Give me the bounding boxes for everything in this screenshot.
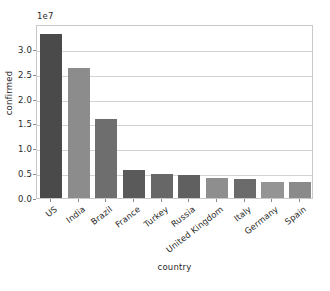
bar <box>289 182 311 198</box>
bar <box>206 178 228 198</box>
y-axis-tick-label: 3.0 <box>2 45 32 55</box>
y-axis-tick-label: 2.5 <box>2 70 32 80</box>
bar <box>261 182 283 198</box>
y-axis-tick-label: 1.5 <box>2 119 32 129</box>
x-axis-tick-label: Brazil <box>89 204 114 227</box>
plot-area <box>36 25 313 199</box>
x-axis-tick-mark <box>161 199 162 202</box>
x-axis-tick-label: US <box>44 204 59 219</box>
bar <box>68 68 90 198</box>
x-axis-tick-mark <box>133 199 134 202</box>
x-axis-title: country <box>36 262 313 272</box>
bar <box>151 174 173 198</box>
x-axis-tick-labels: USIndiaBrazilFranceTurkeyRussiaUnited Ki… <box>36 199 313 259</box>
x-axis-tick-mark <box>50 199 51 202</box>
y-axis-offset-text: 1e7 <box>37 11 54 21</box>
x-axis-tick-label: France <box>113 204 142 230</box>
x-axis-tick-mark <box>299 199 300 202</box>
y-axis-tick-labels: 0.00.51.01.52.02.53.0 <box>0 25 32 199</box>
y-axis-tick-label: 1.0 <box>2 144 32 154</box>
bar-chart-figure: 1e7 confirmed 0.00.51.01.52.02.53.0 USIn… <box>0 0 330 291</box>
bar <box>40 34 62 198</box>
x-axis-tick-label: Italy <box>232 204 253 224</box>
y-axis-tick-label: 2.0 <box>2 95 32 105</box>
x-axis-tick-label: Spain <box>283 204 308 227</box>
bar <box>95 119 117 198</box>
x-axis-tick-label: Turkey <box>141 204 169 229</box>
bar <box>123 170 145 198</box>
x-axis-tick-mark <box>188 199 189 202</box>
x-axis-tick-mark <box>244 199 245 202</box>
x-axis-tick-label: India <box>64 204 87 225</box>
bar <box>178 175 200 198</box>
x-axis-tick-mark <box>78 199 79 202</box>
bar <box>234 179 256 198</box>
gridline <box>37 51 312 52</box>
x-axis-tick-mark <box>105 199 106 202</box>
y-axis-tick-label: 0.5 <box>2 169 32 179</box>
x-axis-tick-mark <box>216 199 217 202</box>
x-axis-tick-mark <box>271 199 272 202</box>
y-axis-tick-label: 0.0 <box>2 194 32 204</box>
